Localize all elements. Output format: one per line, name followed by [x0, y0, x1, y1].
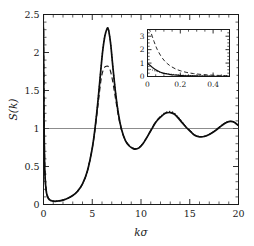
y-tick-label: 2	[33, 47, 39, 58]
inset-x-tick-label: 0	[145, 80, 150, 89]
inset-y-tick-label: 0	[140, 72, 145, 81]
inset-y-tick-label: 3	[140, 32, 145, 41]
y-tick-label: 0.5	[24, 161, 39, 172]
y-tick-label: 1	[33, 123, 39, 134]
inset-x-tick-label: 0.4	[207, 80, 219, 89]
figure-container: 0510152000.511.522.5 S(k) kσ 00.20.40123	[0, 0, 254, 246]
inset-x-tick-label: 0.2	[174, 80, 186, 89]
x-tick-label: 10	[135, 208, 147, 219]
y-tick-label: 1.5	[24, 85, 39, 96]
inset-group: 00.20.40123	[131, 25, 237, 93]
y-tick-label: 0	[33, 199, 39, 210]
y-tick-label: 2.5	[24, 9, 39, 20]
inset-y-tick-label: 2	[140, 45, 145, 54]
x-tick-label: 5	[89, 208, 95, 219]
y-axis-title: S(k)	[7, 99, 19, 121]
structure-factor-chart: 0510152000.511.522.5 S(k) kσ 00.20.40123	[0, 0, 254, 246]
x-tick-label: 0	[40, 208, 46, 219]
x-axis-title: kσ	[134, 226, 148, 238]
inset-y-tick-label: 1	[140, 59, 145, 68]
x-tick-label: 15	[184, 208, 196, 219]
x-tick-label: 20	[232, 208, 244, 219]
